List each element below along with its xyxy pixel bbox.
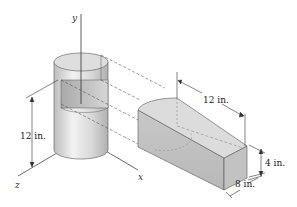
x-axis — [104, 150, 138, 170]
dim-cylinder-height — [26, 80, 58, 167]
dim-block-height — [249, 145, 265, 177]
label-block-length: 12 in. — [203, 95, 229, 105]
label-cylinder-height: 12 in. — [20, 131, 46, 141]
label-block-height: 4 in. — [265, 158, 285, 168]
diagram-canvas: 12 in. 12 in. 4 in. 8 in. — [0, 0, 297, 207]
label-z-axis: z — [14, 180, 20, 190]
z-axis — [18, 150, 62, 176]
label-y-axis: y — [71, 13, 78, 23]
label-x-axis: x — [138, 172, 143, 182]
label-block-width: 8 in. — [235, 179, 255, 189]
rounded-block — [138, 98, 247, 190]
composite-solid-figure: 12 in. 12 in. 4 in. 8 in. — [0, 0, 297, 207]
